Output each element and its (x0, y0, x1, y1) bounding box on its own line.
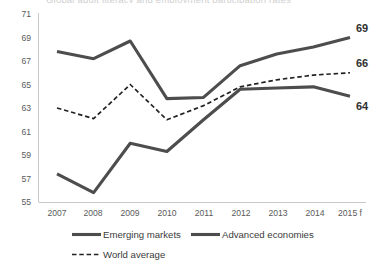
x-tick-label: 2009 (120, 208, 139, 218)
legend-label-emerging-markets[interactable]: Emerging markets (103, 229, 181, 240)
y-tick-label: 55 (21, 197, 31, 207)
clipped-chart-title: Global adult literacy and employment par… (46, 0, 346, 3)
y-tick-label: 57 (21, 174, 31, 184)
x-tick-label: 2015 f (338, 208, 363, 218)
chart-legend: Emerging markets Advanced economies Worl… (72, 229, 314, 260)
x-tick-label: 2014 (305, 208, 324, 218)
x-tick-label: 2007 (47, 208, 66, 218)
legend-label-advanced-economies[interactable]: Advanced economies (222, 229, 314, 240)
y-tick-label: 61 (21, 127, 31, 137)
end-label-advanced-economies: 64 (356, 100, 369, 112)
chart-canvas: 71 69 67 65 63 61 59 57 55 2007 2008 200… (0, 0, 376, 267)
series-end-value-labels: 69 64 66 (356, 22, 369, 113)
x-tick-label: 2011 (195, 208, 214, 218)
x-axis-tick-labels: 2007 2008 2009 2010 2011 2012 2013 2014 … (47, 208, 362, 218)
y-tick-label: 67 (21, 56, 31, 66)
x-tick-label: 2008 (83, 208, 102, 218)
end-label-world-average: 66 (356, 57, 368, 69)
y-tick-label: 71 (21, 9, 31, 19)
x-tick-label: 2013 (268, 208, 287, 218)
end-label-emerging-markets: 69 (356, 22, 368, 34)
x-tick-label: 2010 (157, 208, 176, 218)
series-line-advanced-economies (57, 87, 350, 193)
y-tick-label: 59 (21, 150, 31, 160)
y-tick-label: 65 (21, 80, 31, 90)
y-axis-tick-labels: 71 69 67 65 63 61 59 57 55 (21, 9, 31, 207)
y-tick-label: 69 (21, 33, 31, 43)
y-tick-label: 63 (21, 103, 31, 113)
legend-label-world-average[interactable]: World average (103, 249, 165, 260)
line-chart: Global adult literacy and employment par… (0, 0, 376, 267)
series-line-emerging-markets (57, 38, 350, 99)
x-tick-label: 2012 (231, 208, 250, 218)
plot-series (57, 38, 350, 193)
